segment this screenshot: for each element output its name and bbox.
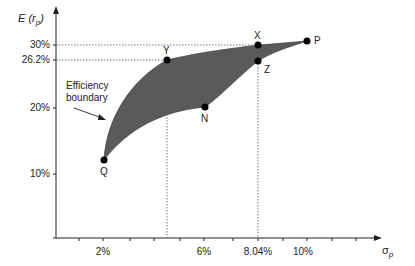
y-axis-arrow-icon (53, 6, 59, 14)
label-x: X (254, 31, 261, 41)
point-z (255, 58, 262, 65)
y-tick-26-2: 26.2% (10, 55, 50, 65)
x-tick-10: 10% (283, 247, 323, 257)
label-z: Z (264, 65, 270, 75)
point-x (255, 42, 262, 49)
x-tick-6: 6% (184, 247, 224, 257)
y-axis-label-close: ) (40, 12, 44, 24)
y-tick-20: 20% (10, 103, 50, 113)
y-tick-10: 10% (10, 169, 50, 179)
x-axis-label: σp (382, 244, 393, 259)
point-q (101, 157, 108, 164)
efficiency-boundary-annotation: Efficiency boundary (66, 80, 109, 104)
x-axis-arrow-icon (374, 235, 382, 241)
x-axis (53, 238, 375, 241)
chart-canvas (0, 0, 415, 266)
y-axis (53, 12, 56, 238)
x-axis-label-text: σ (382, 244, 389, 256)
point-p (304, 38, 311, 45)
y-tick-30: 30% (10, 40, 50, 50)
label-p: P (314, 36, 321, 46)
point-n (202, 104, 209, 111)
label-q: Q (100, 167, 108, 177)
label-y: Y (163, 46, 170, 56)
annotation-line-2: boundary (66, 92, 109, 104)
annotation-arrow-icon (74, 108, 106, 120)
y-axis-label: E (rp) (18, 12, 44, 27)
annotation-line-1: Efficiency (66, 80, 109, 92)
feasible-region (104, 41, 307, 160)
x-axis-label-sub: p (389, 250, 393, 259)
label-n: N (201, 114, 208, 124)
x-tick-8-04: 8.04% (238, 247, 278, 257)
y-axis-label-text: E (r (18, 12, 36, 24)
x-tick-2: 2% (83, 247, 123, 257)
point-y (164, 57, 171, 64)
